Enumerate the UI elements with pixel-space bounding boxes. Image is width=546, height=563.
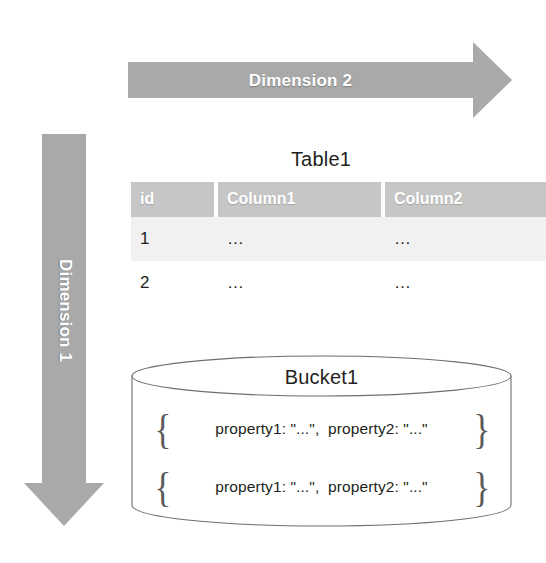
table-cell-id: 2 bbox=[131, 261, 218, 305]
bucket-document-text: property1: "...", property2: "..." bbox=[171, 478, 472, 496]
table-header-id: id bbox=[131, 182, 218, 217]
bucket-title: Bucket1 bbox=[131, 366, 512, 389]
table-block: Table1 id Column1 Column2 1 … … 2 … … bbox=[131, 148, 511, 305]
table-row: 2 … … bbox=[131, 261, 546, 305]
brace-close-icon: } bbox=[473, 408, 488, 450]
table-cell-column1: … bbox=[218, 217, 385, 261]
bucket-block: Bucket1 { property1: "...", property2: "… bbox=[131, 355, 512, 528]
bucket-document-text: property1: "...", property2: "..." bbox=[171, 420, 472, 438]
table-header-column2: Column2 bbox=[385, 182, 546, 217]
brace-open-icon: { bbox=[154, 408, 169, 450]
bucket-document: { property1: "...", property2: "..." } bbox=[153, 466, 490, 508]
table-row: 1 … … bbox=[131, 217, 546, 261]
bucket-document: { property1: "...", property2: "..." } bbox=[153, 408, 490, 450]
table-cell-column2: … bbox=[385, 217, 546, 261]
data-table: id Column1 Column2 1 … … 2 … … bbox=[131, 182, 546, 305]
horizontal-arrow-icon bbox=[128, 42, 512, 118]
table-cell-column2: … bbox=[385, 261, 546, 305]
table-cell-id: 1 bbox=[131, 217, 218, 261]
brace-open-icon: { bbox=[154, 466, 169, 508]
table-title: Table1 bbox=[131, 148, 511, 171]
table-cell-column1: … bbox=[218, 261, 385, 305]
brace-close-icon: } bbox=[473, 466, 488, 508]
table-header-row: id Column1 Column2 bbox=[131, 182, 546, 217]
vertical-arrow-icon bbox=[24, 134, 104, 526]
table-header-column1: Column1 bbox=[218, 182, 385, 217]
